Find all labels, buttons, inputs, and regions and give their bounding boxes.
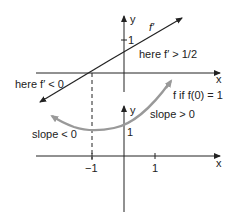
f-curve-label: f if f(0) = 1 [173, 89, 223, 101]
f-prime-label: f′ [149, 21, 155, 33]
bottom-y-axis-label: y [130, 104, 136, 116]
top-y-axis-label: y [130, 13, 136, 25]
top-y-tick-label: 1 [128, 34, 134, 46]
f-curve [52, 82, 170, 130]
derivative-diagram: y 1 x f′ here f′ > 1/2 here f′ < 0 y 1 x… [0, 0, 232, 221]
top-x-axis-label: x [216, 73, 222, 85]
x-tick-label-1: 1 [152, 162, 158, 174]
annotation-f-prime-negative: here f′ < 0 [15, 78, 64, 90]
annotation-slope-negative: slope < 0 [32, 128, 77, 140]
annotation-slope-positive: slope > 0 [150, 108, 195, 120]
f-curve-head [166, 81, 171, 88]
annotation-f-prime-positive: here f′ > 1/2 [139, 48, 197, 60]
x-tick-label-minus-1: −1 [85, 162, 98, 174]
bottom-x-axis-label: x [216, 157, 222, 169]
bottom-y-tick-label: 1 [127, 126, 133, 138]
bottom-plot: y 1 x −1 1 f if f(0) = 1 slope > 0 slope… [32, 81, 223, 212]
